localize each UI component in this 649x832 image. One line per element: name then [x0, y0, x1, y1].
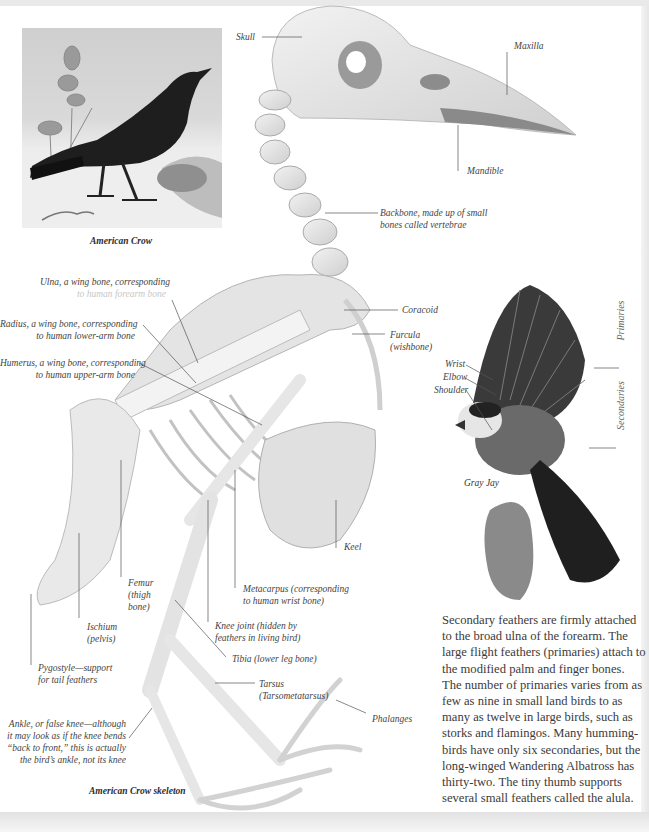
humerus-label: Humerus, a wing bone, corresponding to h…	[0, 357, 135, 381]
primaries-label: Primaries	[615, 291, 626, 351]
coracoid-label: Coracoid	[402, 304, 438, 316]
femur-label: Femur (thigh bone)	[128, 577, 153, 613]
skull-label: Skull	[236, 31, 255, 43]
gray-jay-caption: Gray Jay	[464, 478, 499, 488]
shoulder-label: Shoulder	[434, 384, 468, 396]
wing-feathers-paragraph: Secondary feathers are firmly attached t…	[442, 612, 634, 806]
ulna-label: Ulna, a wing bone, corresponding to huma…	[40, 276, 166, 300]
knee-joint-label: Knee joint (hidden by feathers in living…	[215, 620, 300, 644]
ischium-label: Ischium (pelvis)	[87, 621, 117, 645]
furcula-label: Furcula (wishbone)	[390, 329, 432, 353]
mandible-label: Mandible	[467, 165, 503, 177]
skull-icon	[272, 6, 576, 135]
secondaries-label: Secondaries	[615, 366, 626, 446]
tibia-label: Tibia (lower leg bone)	[232, 653, 317, 665]
keel-label: Keel	[344, 541, 361, 553]
pygostyle-label: Pygostyle—support for tail feathers	[38, 662, 112, 686]
phalanges-label: Phalanges	[372, 713, 412, 725]
radius-label: Radius, a wing bone, corresponding to hu…	[0, 318, 135, 342]
ankle-label: Ankle, or false knee—although it may loo…	[0, 718, 126, 766]
gray-jay-drawing	[455, 285, 620, 600]
tarsus-label: Tarsus (Tarsometatarsus)	[259, 678, 328, 702]
skeleton-caption: American Crow skeleton	[89, 786, 186, 796]
maxilla-label: Maxilla	[514, 40, 544, 52]
backbone-label: Backbone, made up of small bones called …	[380, 207, 487, 231]
elbow-label: Elbow	[443, 371, 467, 383]
wrist-label: Wrist	[445, 358, 465, 370]
metacarpus-label: Metacarpus (corresponding to human wrist…	[243, 583, 349, 607]
